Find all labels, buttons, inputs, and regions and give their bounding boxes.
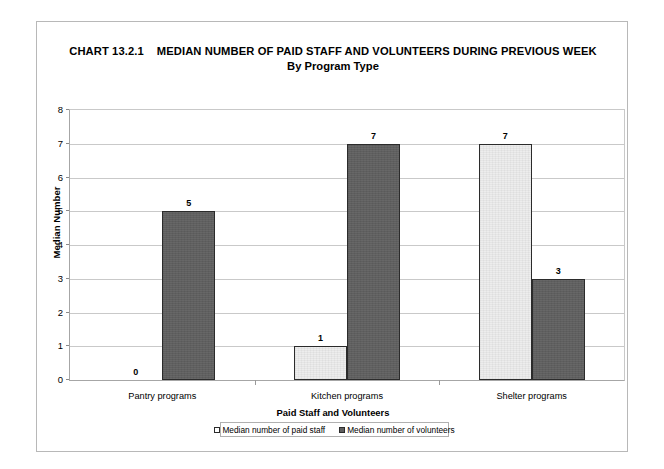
x-tick-label: Shelter programs xyxy=(439,391,624,402)
chart-number: CHART 13.2.1 xyxy=(69,45,144,57)
chart-subtitle: By Program Type xyxy=(37,59,629,74)
bar-value-label: 3 xyxy=(532,266,585,276)
dark-square-icon xyxy=(339,427,345,433)
bar-kitchen-volunteers xyxy=(347,144,400,380)
y-tick-label: 2 xyxy=(43,308,63,317)
bar-value-label: 5 xyxy=(162,198,215,208)
y-tick-label: 6 xyxy=(43,173,63,182)
bar-kitchen-paid-staff xyxy=(294,346,347,380)
chart-frame: CHART 13.2.1MEDIAN NUMBER OF PAID STAFF … xyxy=(36,21,628,452)
y-tick-label: 0 xyxy=(43,375,63,384)
bar-shelter-volunteers xyxy=(532,279,585,380)
y-tick-label: 5 xyxy=(43,206,63,215)
legend-label-paid-staff: Median number of paid staff xyxy=(222,425,325,435)
bar-value-label: 7 xyxy=(347,131,400,141)
chart-legend: Median number of paid staff Median numbe… xyxy=(220,422,449,437)
x-tick-label: Pantry programs xyxy=(70,391,255,402)
bar-value-label: 1 xyxy=(294,333,347,343)
chart-title: CHART 13.2.1MEDIAN NUMBER OF PAID STAFF … xyxy=(37,44,629,59)
bar-pantry-volunteers xyxy=(162,211,215,380)
legend-item-paid-staff: Median number of paid staff xyxy=(214,425,325,435)
light-square-icon xyxy=(214,427,220,433)
y-axis-ticks: 876543210 xyxy=(37,109,69,380)
legend-label-volunteers: Median number of volunteers xyxy=(347,425,454,435)
bar-value-label: 0 xyxy=(109,367,162,377)
y-tick-label: 7 xyxy=(43,139,63,148)
y-tick-label: 4 xyxy=(43,240,63,249)
y-tick-label: 1 xyxy=(43,341,63,350)
bar-value-label: 7 xyxy=(479,131,532,141)
bar-shelter-paid-staff xyxy=(479,144,532,380)
y-tick-label: 8 xyxy=(43,105,63,114)
y-tick-label: 3 xyxy=(43,274,63,283)
x-tick-label: Kitchen programs xyxy=(255,391,440,402)
x-axis-separator xyxy=(439,380,440,385)
x-axis-title: Paid Staff and Volunteers xyxy=(37,407,629,418)
legend-item-volunteers: Median number of volunteers xyxy=(339,425,454,435)
x-axis-separator xyxy=(255,380,256,385)
chart-title-main: MEDIAN NUMBER OF PAID STAFF AND VOLUNTEE… xyxy=(157,45,597,57)
chart-title-block: CHART 13.2.1MEDIAN NUMBER OF PAID STAFF … xyxy=(37,44,629,74)
bars-layer: 051773 xyxy=(70,110,624,380)
